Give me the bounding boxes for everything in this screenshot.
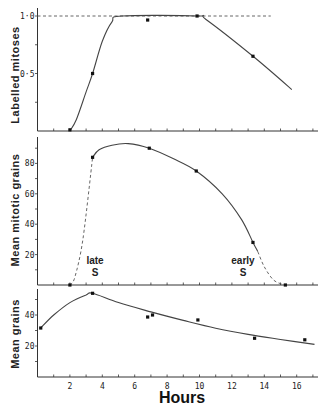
middle-y-tick-label: 60 bbox=[25, 190, 35, 199]
x-tick-label: 6 bbox=[132, 382, 137, 391]
top-data-point bbox=[251, 55, 254, 58]
mitotic-grains-curve bbox=[93, 143, 258, 251]
middle-data-point bbox=[91, 156, 94, 159]
svg-text:S: S bbox=[240, 267, 247, 278]
late-s-annotation: late S bbox=[86, 255, 104, 278]
top-y-tick-label: 1·0 bbox=[20, 12, 35, 21]
dashed-fall-curve bbox=[258, 252, 286, 285]
middle-data-point bbox=[251, 241, 254, 244]
early-s-annotation: early S bbox=[231, 255, 255, 278]
bottom-y-tick-label: 20 bbox=[25, 342, 35, 351]
middle-data-point bbox=[195, 169, 198, 172]
middle-y-tick-label: 40 bbox=[25, 220, 35, 229]
top-data-point bbox=[146, 18, 149, 21]
middle-data-point bbox=[68, 283, 71, 286]
middle-data-point bbox=[148, 147, 151, 150]
bottom-data-point bbox=[303, 338, 306, 341]
bottom-data-point bbox=[253, 337, 256, 340]
x-axis-label: Hours bbox=[159, 389, 205, 406]
middle-y-tick-label: 20 bbox=[25, 251, 35, 260]
top-data-point bbox=[195, 14, 198, 17]
svg-text:S: S bbox=[92, 267, 99, 278]
top-fit-curve bbox=[70, 15, 292, 131]
svg-text:early: early bbox=[231, 255, 255, 266]
plot-layer: 0·51·0204060802040246810121416 bbox=[20, 8, 318, 391]
middle-y-tick-label: 80 bbox=[25, 159, 35, 168]
top-y-tick-label: 0·5 bbox=[20, 70, 35, 79]
bottom-data-point bbox=[196, 318, 199, 321]
x-tick-label: 16 bbox=[292, 382, 302, 391]
top-data-point bbox=[68, 128, 71, 131]
x-tick-label: 14 bbox=[259, 382, 269, 391]
x-tick-label: 2 bbox=[67, 382, 72, 391]
bottom-data-point bbox=[91, 292, 94, 295]
bottom-y-axis-label: Mean grains bbox=[9, 299, 21, 369]
x-tick-label: 12 bbox=[227, 382, 237, 391]
svg-text:late: late bbox=[86, 255, 104, 266]
cell-labelling-chart: Labelled mitoses Mean mitotic grains Mea… bbox=[0, 0, 330, 409]
x-tick-label: 10 bbox=[195, 382, 205, 391]
middle-data-point bbox=[284, 283, 287, 286]
top-data-point bbox=[91, 72, 94, 75]
bottom-data-point bbox=[146, 315, 149, 318]
bottom-data-point bbox=[39, 326, 42, 329]
middle-y-axis-label: Mean mitotic grains bbox=[9, 154, 21, 267]
bottom-y-tick-label: 40 bbox=[25, 311, 35, 320]
x-tick-label: 4 bbox=[100, 382, 105, 391]
bottom-fit-curve bbox=[41, 293, 315, 345]
x-tick-label: 8 bbox=[165, 382, 170, 391]
bottom-data-point bbox=[151, 313, 154, 316]
